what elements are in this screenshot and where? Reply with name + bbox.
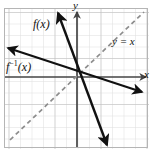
f-inverse-arg: (x)	[18, 60, 31, 74]
graph-canvas	[0, 0, 151, 149]
curve-label-identity: y = x	[112, 36, 135, 47]
function-inverse-graph-figure: f(x) f−1(x) y = x y x	[0, 0, 151, 149]
f-inverse-exponent: −1	[9, 59, 18, 68]
y-axis-label: y	[73, 0, 78, 11]
x-axis-label: x	[144, 69, 149, 80]
curve-label-f-inverse: f−1(x)	[6, 60, 31, 73]
curve-label-f: f(x)	[33, 18, 50, 30]
